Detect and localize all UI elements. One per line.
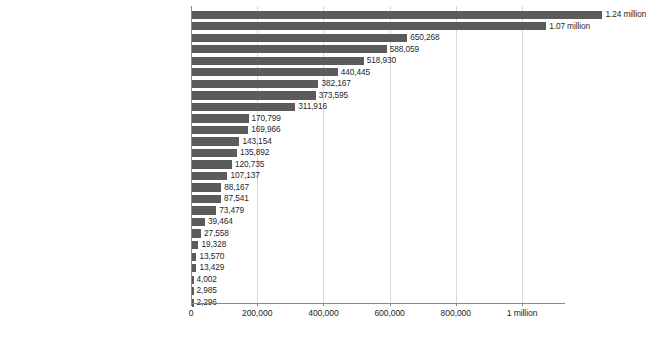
chart-row: Liver disease373,595 (191, 90, 565, 102)
x-axis-tick-label: 800,000 (441, 308, 471, 318)
bar-value-label: 518,930 (367, 55, 396, 67)
bar (192, 276, 194, 284)
bar-value-label: 88,167 (224, 182, 249, 194)
chart-row: Dementia4,002 (191, 274, 565, 286)
x-axis-tick-label: 0 (189, 308, 194, 318)
bar-value-label: 13,429 (199, 262, 224, 274)
bar (192, 229, 201, 237)
bar (192, 114, 249, 122)
chart-row: Drug overdose88,167 (191, 182, 565, 194)
bar-value-label: 1.07 million (549, 21, 590, 33)
bar-value-label: 650,268 (410, 32, 439, 44)
chart-row: Lower respiratory infections169,966 (191, 124, 565, 136)
bar (192, 287, 194, 295)
chart-row: Diarrheal diseases135,892 (191, 147, 565, 159)
x-axis-tick (191, 303, 192, 306)
chart-row: Nutritional deficiencies19,328 (191, 239, 565, 251)
x-axis-tick (456, 303, 457, 306)
chart-row: Road accidents650,268 (191, 32, 565, 44)
chart-row: Heat-related deaths (hot or cold exposur… (191, 251, 565, 263)
x-axis-tick (257, 303, 258, 306)
bar-value-label: 120,735 (235, 159, 264, 171)
chart-row: HIV/AIDS588,059 (191, 44, 565, 56)
bar-value-label: 19,328 (201, 239, 226, 251)
bar-value-label: 440,445 (341, 67, 370, 79)
chart-row: Tuberculosis382,167 (191, 78, 565, 90)
bar (192, 183, 221, 191)
bar-value-label: 4,002 (197, 274, 217, 286)
bar (192, 264, 196, 272)
chart-row: Cardiovascular disease1.24 million (191, 9, 565, 21)
chart-row: Malaria107,137 (191, 170, 565, 182)
bar (192, 91, 316, 99)
chart-row: Digestive diseases518,930 (191, 55, 565, 67)
bar (192, 172, 227, 180)
bar-value-label: 107,137 (230, 170, 259, 182)
bar (192, 126, 248, 134)
chart-row: Natural disasters2,985 (191, 285, 565, 297)
chart-row: Kidney disease170,799 (191, 113, 565, 125)
chart-row: Alcohol disorder73,479 (191, 205, 565, 217)
bar (192, 160, 232, 168)
bar (192, 45, 387, 53)
bar-value-label: 27,558 (204, 228, 229, 240)
bar-value-label: 311,916 (298, 101, 327, 113)
plot-area: Cardiovascular disease1.24 millionCancer… (191, 6, 565, 303)
bar (192, 195, 221, 203)
bar-value-label: 170,799 (252, 113, 281, 125)
bar-value-label: 169,966 (251, 124, 280, 136)
bar (192, 241, 198, 249)
chart-row: Suicide440,445 (191, 67, 565, 79)
bar-value-label: 1.24 million (605, 9, 646, 21)
chart-row: Hepatitis27,558 (191, 228, 565, 240)
x-axis-tick (323, 303, 324, 306)
bar (192, 149, 237, 157)
chart-row: Protein-energy malnutrition13,429 (191, 262, 565, 274)
x-axis-tick (522, 303, 523, 306)
bar (192, 253, 196, 261)
bar (192, 34, 407, 42)
bar-value-label: 373,595 (319, 90, 348, 102)
bar (192, 68, 338, 76)
bar (192, 206, 216, 214)
bar-value-label: 143,154 (242, 136, 271, 148)
x-axis-tick-label: 400,000 (308, 308, 338, 318)
bar (192, 137, 239, 145)
bar-value-label: 588,059 (390, 44, 419, 56)
chart-row: Fire39,464 (191, 216, 565, 228)
bar (192, 218, 205, 226)
bar (192, 103, 295, 111)
bar (192, 22, 546, 30)
bar-value-label: 13,570 (199, 251, 224, 263)
bar-value-label: 73,479 (219, 205, 244, 217)
x-axis-tick-label: 1 million (507, 308, 538, 318)
bar (192, 11, 602, 19)
x-axis-tick-label: 200,000 (242, 308, 272, 318)
x-axis-line (191, 303, 565, 304)
bar-value-label: 87,541 (224, 193, 249, 205)
x-axis-tick (390, 303, 391, 306)
bar-value-label: 135,892 (240, 147, 269, 159)
chart-row: Diabetes mellitus120,735 (191, 159, 565, 171)
bar (192, 57, 364, 65)
chart-row: Drowning87,541 (191, 193, 565, 205)
chart-row: Cancers1.07 million (191, 21, 565, 33)
chart-row: Respiratory disease143,154 (191, 136, 565, 148)
chart-row: Homicide311,916 (191, 101, 565, 113)
x-axis-tick-label: 600,000 (374, 308, 404, 318)
bar-value-label: 382,167 (321, 78, 350, 90)
bar (192, 80, 318, 88)
bar-value-label: 2,985 (197, 285, 217, 297)
bar-value-label: 39,464 (208, 216, 233, 228)
